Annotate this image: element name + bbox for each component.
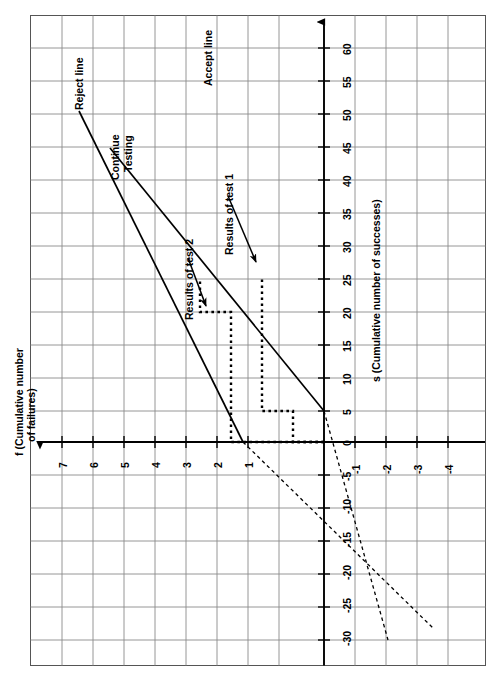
reject-line-label: Reject line [74,57,86,110]
s-tick-label: 0 [341,440,353,446]
s-tick-label: 10 [341,373,353,385]
f-tick-label: 6 [88,462,100,468]
f-tick-label: 7 [57,462,69,468]
f-tick-label: -1 [350,465,362,474]
s-tick-label: -25 [341,598,353,613]
f-tick-label: -2 [381,465,393,474]
s-tick-label: 40 [341,175,353,187]
results-test-2-label: Results of test 2 [184,239,196,320]
s-tick-label: 50 [341,109,353,121]
continue-testing-label-line1: Continue [110,135,122,181]
continue-testing-label-line2: Testing [123,135,135,172]
f-axis-title-line2: of failures) [26,388,38,442]
s-tick-label: 15 [341,340,353,352]
f-tick-label: 5 [119,462,131,468]
s-axis-title: s (Cumulative number of successes) [371,199,383,382]
s-tick-label: -30 [341,631,353,646]
s-tick-label: -10 [341,499,353,514]
f-tick-label: 3 [181,462,193,468]
s-tick-label: 60 [341,43,353,55]
s-tick-label: 5 [341,409,353,415]
s-tick-label: 30 [341,241,353,253]
f-tick-label: -3 [412,465,424,474]
f-tick-label: -4 [443,465,455,474]
results-test-1-label: Results of test 1 [224,174,236,255]
f-tick-label: 2 [212,462,224,468]
s-tick-label: 45 [341,142,353,154]
s-tick-label: 25 [341,274,353,286]
f-axis-title-line1: f (Cumulative number [14,348,26,456]
s-tick-label: -20 [341,565,353,580]
accept-line-label: Accept line [203,30,215,86]
s-tick-label: -15 [341,532,353,547]
s-tick-label: 55 [341,76,353,88]
f-tick-label: 4 [150,462,162,468]
s-tick-label: 35 [341,208,353,220]
s-tick-label: 20 [341,307,353,319]
chart-page: -30 -25 -20 -15 -10 -5 0 5 10 15 20 25 3… [0,0,491,673]
f-tick-label: 1 [243,462,255,468]
